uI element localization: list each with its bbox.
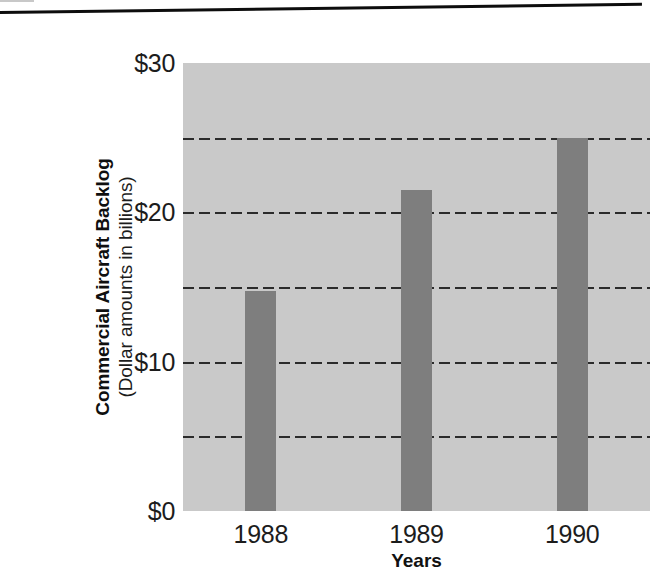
plot-area <box>183 63 650 511</box>
x-tick-label-1989: 1989 <box>357 519 477 549</box>
scan-line-artifact <box>0 3 642 14</box>
x-axis-title: Years <box>183 550 650 572</box>
x-axis-tick-labels: 1988 1989 1990 <box>183 519 650 551</box>
y-axis-title-subtitle: (Dollar amounts in billions) <box>114 92 138 482</box>
y-tick-label-30: $30 <box>128 51 175 76</box>
y-axis-title: Commercial Aircraft Backlog (Dollar amou… <box>91 92 143 482</box>
scan-artifact-mark <box>0 0 34 2</box>
x-tick-label-1990: 1990 <box>512 519 632 549</box>
bar-chart: $30 $20 $10 $0 1988 1989 1990 Years Comm… <box>40 16 654 581</box>
bar-1989 <box>401 190 432 511</box>
bar-1990 <box>557 138 588 511</box>
y-tick-label-0: $0 <box>128 499 175 524</box>
x-tick-label-1988: 1988 <box>201 519 321 549</box>
bar-1988 <box>245 291 276 511</box>
y-axis-title-main: Commercial Aircraft Backlog <box>91 92 114 482</box>
